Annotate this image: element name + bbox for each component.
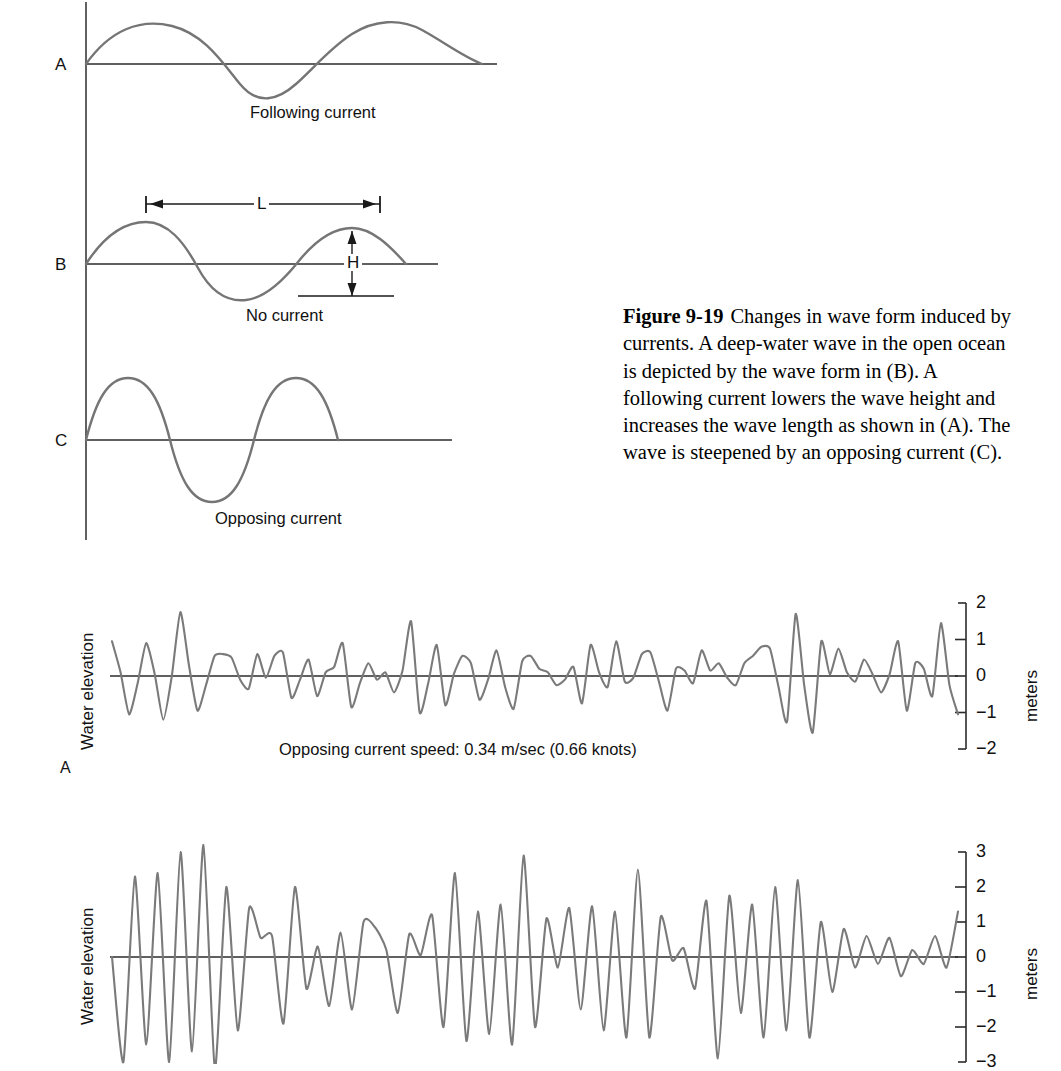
schematic-caption-no-current: No current <box>246 306 323 325</box>
chart-b-tick-marks <box>955 852 966 1062</box>
axis-tick-label: 1 <box>976 629 986 650</box>
chart-a-y-axis-label: Water elevation <box>78 633 98 750</box>
wave-record-chart-b-svg <box>0 820 1061 1064</box>
axis-tick-label: 2 <box>976 592 986 613</box>
chart-b-y-axis-label: Water elevation <box>78 908 98 1025</box>
axis-tick-label: −2 <box>976 1016 997 1037</box>
axis-tick-label: 3 <box>976 841 986 862</box>
schematic-svg <box>0 0 600 545</box>
chart-a-current-speed-annotation: Opposing current speed: 0.34 m/sec (0.66… <box>279 740 637 759</box>
axis-tick-label: 0 <box>976 946 986 967</box>
axis-tick-label: −2 <box>976 738 997 759</box>
figure-number: Figure 9-19 <box>623 305 723 327</box>
axis-tick-label: 2 <box>976 876 986 897</box>
chart-a-tick-marks <box>955 603 966 749</box>
schematic-caption-following-current: Following current <box>250 103 376 122</box>
schematic-panel-letter-c: C <box>55 431 67 451</box>
wave-form-schematic: A Following current B No current C Oppos… <box>0 0 600 545</box>
axis-tick-label: −3 <box>976 1051 997 1071</box>
chart-b-wave-trace <box>112 845 958 1064</box>
wavelength-arrow-right <box>363 200 376 209</box>
panel-a-wave-curve <box>86 22 482 98</box>
waveheight-arrow-up <box>348 231 357 244</box>
schematic-panel-letter-a: A <box>55 55 67 75</box>
wavelength-label: L <box>254 195 269 212</box>
waveheight-label: H <box>344 254 362 271</box>
chart-a-panel-letter: A <box>60 759 71 777</box>
chart-a-unit-label: meters <box>1022 670 1042 722</box>
chart-b-unit-label: meters <box>1022 948 1042 1000</box>
wave-record-chart-b: Water elevation meters 3210−1−2−3 <box>0 820 1061 1064</box>
wave-record-chart-a: Water elevation meters Opposing current … <box>0 560 1061 790</box>
axis-tick-label: 1 <box>976 911 986 932</box>
chart-a-wave-trace <box>112 612 958 733</box>
schematic-panel-letter-b: B <box>55 255 67 275</box>
waveheight-arrow-down <box>348 283 357 296</box>
axis-tick-label: 0 <box>976 665 986 686</box>
axis-tick-label: −1 <box>976 702 997 723</box>
figure-caption: Figure 9-19Changes in wave form induced … <box>623 303 1013 467</box>
schematic-caption-opposing-current: Opposing current <box>215 509 342 528</box>
wavelength-arrow-left <box>150 200 163 209</box>
figure-caption-text: Changes in wave form induced by currents… <box>623 305 1011 463</box>
axis-tick-label: −1 <box>976 981 997 1002</box>
